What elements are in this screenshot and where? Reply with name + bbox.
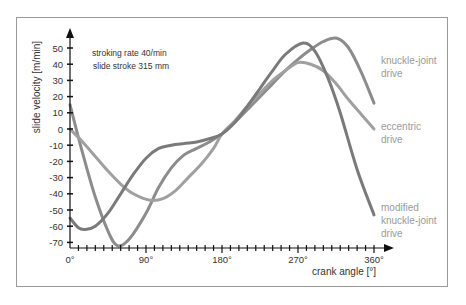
x-tick-label: 90°: [139, 254, 154, 265]
y-tick-label: 0: [58, 124, 63, 135]
y-tick-label: -60: [49, 221, 63, 232]
y-tick-label: 50: [52, 43, 63, 54]
y-tick-label: 30: [52, 75, 63, 86]
y-tick-label: -50: [49, 205, 63, 216]
x-tick-label: 180°: [212, 254, 232, 265]
y-tick-label: -20: [49, 156, 63, 167]
x-tick-label: 360°: [364, 254, 384, 265]
legend-eccentric-line1: eccentric: [381, 121, 421, 132]
annotation-stroking-rate: stroking rate 40/min: [92, 48, 167, 58]
x-tick-label: 0°: [65, 254, 74, 265]
legend-modified-line2: knuckle-joint: [381, 215, 437, 226]
legend-eccentric-line2: drive: [381, 134, 403, 145]
y-tick-label: 10: [52, 107, 63, 118]
legend-modified-line1: modified: [381, 202, 419, 213]
legend-modified-line3: drive: [381, 228, 403, 239]
y-tick-label: -70: [49, 237, 63, 248]
y-tick-label: -10: [49, 140, 63, 151]
y-tick-label: -30: [49, 172, 63, 183]
legend-knuckle-line2: drive: [381, 68, 403, 79]
chart: 50403020100-10-20-30-40-50-60-700°90°180…: [0, 0, 466, 305]
x-axis-label: crank angle [°]: [312, 266, 376, 277]
y-tick-label: 20: [52, 91, 63, 102]
y-tick-label: -40: [49, 188, 63, 199]
annotation-slide-stroke: slide stroke 315 mm: [93, 61, 169, 71]
y-axis-label: slide velocity [m/min]: [31, 41, 42, 133]
legend-knuckle-line1: knuckle-joint: [381, 55, 437, 66]
x-tick-label: 270°: [288, 254, 308, 265]
y-tick-label: 40: [52, 59, 63, 70]
